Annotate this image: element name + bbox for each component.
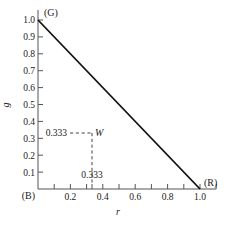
white-point-r-value-label: 0.333 [81, 170, 103, 180]
x-tick-label-0-6: 0.6 [129, 192, 141, 202]
y-tick-label-0-4: 0.4 [23, 117, 35, 127]
green-primary-label: (G) [44, 7, 58, 19]
y-tick-labels: 1.0 0.9 0.8 0.7 0.6 0.5 0.4 0.3 0.2 0.1 [23, 15, 35, 177]
chromaticity-line [38, 20, 200, 189]
red-primary-label: (R) [204, 177, 217, 189]
y-tick-label-0-3: 0.3 [23, 134, 35, 144]
y-tick-label-0-8: 0.8 [23, 49, 35, 59]
y-tick-label-1-0: 1.0 [23, 15, 35, 25]
y-tick-label-0-2: 0.2 [23, 151, 35, 161]
chromaticity-diagram-figure: 1.0 0.9 0.8 0.7 0.6 0.5 0.4 0.3 0.2 0.1 [0, 0, 228, 226]
x-tick-labels: 0.2 0.4 0.6 0.8 1.0 [64, 192, 206, 202]
y-tick-marks [38, 20, 43, 172]
white-point-label: W [95, 127, 105, 138]
white-point-g-value-label: 0.333 [46, 128, 68, 138]
y-tick-label-0-9: 0.9 [23, 32, 35, 42]
x-axis-title: r [116, 206, 120, 217]
axis-group [38, 10, 216, 189]
y-tick-label-0-5: 0.5 [23, 100, 35, 110]
blue-primary-label: (B) [22, 190, 35, 202]
x-tick-label-0-4: 0.4 [97, 192, 109, 202]
x-tick-label-1-0: 1.0 [194, 192, 206, 202]
x-tick-marks [54, 184, 216, 189]
x-tick-label-0-2: 0.2 [64, 192, 76, 202]
y-tick-label-0-1: 0.1 [23, 168, 35, 178]
y-axis-title: g [0, 103, 11, 108]
x-tick-label-0-8: 0.8 [162, 192, 174, 202]
y-tick-label-0-7: 0.7 [23, 66, 35, 76]
y-tick-label-0-6: 0.6 [23, 83, 35, 93]
chart-svg: 1.0 0.9 0.8 0.7 0.6 0.5 0.4 0.3 0.2 0.1 [0, 0, 228, 226]
